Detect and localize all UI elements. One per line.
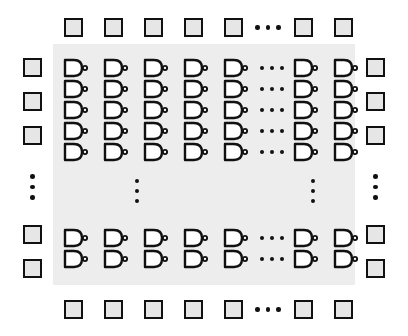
nand-gate[interactable]	[292, 249, 318, 269]
io-pad-bottom-6[interactable]	[294, 300, 313, 319]
ellipsis-dot	[270, 150, 274, 154]
io-pad-bottom-3[interactable]	[144, 300, 163, 319]
nand-gate[interactable]	[102, 121, 128, 141]
horizontal-ellipsis-gate-row	[255, 79, 289, 99]
io-pad-right-3[interactable]	[366, 126, 385, 145]
io-pad-bottom-2[interactable]	[104, 300, 123, 319]
nand-gate[interactable]	[142, 79, 168, 99]
ellipsis-dot	[260, 257, 264, 261]
nand-gate[interactable]	[62, 58, 88, 78]
ellipsis-dot	[260, 129, 264, 133]
ellipsis-dot	[373, 195, 378, 200]
io-pad-left-2[interactable]	[23, 92, 42, 111]
nand-gate[interactable]	[62, 142, 88, 162]
nand-gate[interactable]	[292, 100, 318, 120]
nand-gate[interactable]	[332, 142, 358, 162]
ellipsis-dot	[270, 87, 274, 91]
horizontal-ellipsis-top-pads	[248, 18, 288, 37]
io-pad-top-1[interactable]	[64, 18, 83, 37]
nand-gate[interactable]	[222, 58, 248, 78]
nand-gate[interactable]	[62, 100, 88, 120]
ellipsis-dot	[260, 236, 264, 240]
nand-gate[interactable]	[102, 228, 128, 248]
io-pad-top-5[interactable]	[224, 18, 243, 37]
nand-gate[interactable]	[182, 142, 208, 162]
nand-gate[interactable]	[332, 121, 358, 141]
nand-gate[interactable]	[182, 228, 208, 248]
io-pad-bottom-4[interactable]	[184, 300, 203, 319]
ellipsis-dot	[255, 25, 260, 30]
nand-gate[interactable]	[62, 121, 88, 141]
io-pad-left-3[interactable]	[23, 126, 42, 145]
nand-gate[interactable]	[332, 58, 358, 78]
nand-gate[interactable]	[142, 228, 168, 248]
nand-gate[interactable]	[102, 142, 128, 162]
nand-gate[interactable]	[222, 142, 248, 162]
nand-gate[interactable]	[182, 121, 208, 141]
nand-gate[interactable]	[62, 249, 88, 269]
nand-gate[interactable]	[182, 79, 208, 99]
nand-gate[interactable]	[292, 121, 318, 141]
vertical-ellipsis-left-pads	[23, 167, 42, 207]
nand-gate[interactable]	[142, 121, 168, 141]
nand-gate[interactable]	[102, 79, 128, 99]
ellipsis-dot	[280, 150, 284, 154]
nand-gate[interactable]	[102, 249, 128, 269]
nand-gate[interactable]	[182, 100, 208, 120]
nand-gate[interactable]	[222, 79, 248, 99]
io-pad-right-4[interactable]	[366, 225, 385, 244]
nand-gate[interactable]	[222, 249, 248, 269]
nand-gate[interactable]	[222, 121, 248, 141]
nand-gate[interactable]	[332, 79, 358, 99]
io-pad-bottom-1[interactable]	[64, 300, 83, 319]
ellipsis-dot	[260, 108, 264, 112]
ellipsis-dot	[311, 189, 315, 193]
nand-gate[interactable]	[222, 100, 248, 120]
nand-gate[interactable]	[182, 58, 208, 78]
io-pad-bottom-7[interactable]	[334, 300, 353, 319]
ellipsis-dot	[30, 174, 35, 179]
nand-gate[interactable]	[292, 79, 318, 99]
io-pad-bottom-5[interactable]	[224, 300, 243, 319]
io-pad-left-4[interactable]	[23, 225, 42, 244]
ellipsis-dot	[276, 307, 281, 312]
ellipsis-dot	[135, 189, 139, 193]
nand-gate[interactable]	[222, 228, 248, 248]
nand-gate[interactable]	[292, 142, 318, 162]
ellipsis-dot	[260, 87, 264, 91]
io-pad-top-7[interactable]	[334, 18, 353, 37]
horizontal-ellipsis-gate-row	[255, 142, 289, 162]
nand-gate[interactable]	[102, 100, 128, 120]
ellipsis-dot	[373, 174, 378, 179]
io-pad-top-4[interactable]	[184, 18, 203, 37]
ellipsis-dot	[266, 307, 271, 312]
nand-gate[interactable]	[62, 228, 88, 248]
io-pad-top-2[interactable]	[104, 18, 123, 37]
horizontal-ellipsis-gate-row	[255, 121, 289, 141]
io-pad-top-6[interactable]	[294, 18, 313, 37]
ellipsis-dot	[280, 66, 284, 70]
nand-gate[interactable]	[62, 79, 88, 99]
io-pad-right-5[interactable]	[366, 259, 385, 278]
nand-gate[interactable]	[142, 249, 168, 269]
nand-gate[interactable]	[142, 100, 168, 120]
nand-gate[interactable]	[102, 58, 128, 78]
horizontal-ellipsis-gate-row	[255, 249, 289, 269]
gate-array-chip-diagram	[0, 0, 408, 336]
io-pad-right-2[interactable]	[366, 92, 385, 111]
nand-gate[interactable]	[142, 142, 168, 162]
ellipsis-dot	[311, 179, 315, 183]
nand-gate[interactable]	[332, 228, 358, 248]
ellipsis-dot	[373, 185, 378, 190]
vertical-ellipsis-right-pads	[366, 167, 385, 207]
io-pad-top-3[interactable]	[144, 18, 163, 37]
io-pad-left-5[interactable]	[23, 259, 42, 278]
nand-gate[interactable]	[292, 58, 318, 78]
nand-gate[interactable]	[292, 228, 318, 248]
nand-gate[interactable]	[332, 100, 358, 120]
nand-gate[interactable]	[332, 249, 358, 269]
io-pad-right-1[interactable]	[366, 58, 385, 77]
nand-gate[interactable]	[182, 249, 208, 269]
io-pad-left-1[interactable]	[23, 58, 42, 77]
nand-gate[interactable]	[142, 58, 168, 78]
